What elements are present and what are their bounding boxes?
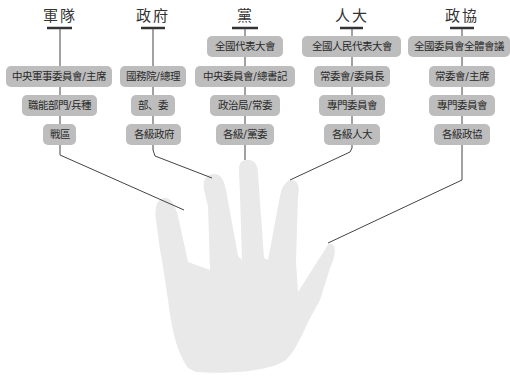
hand-silhouette [155, 160, 334, 373]
org-box: 各級政協 [434, 124, 490, 145]
column-title-military: 軍隊 [20, 4, 100, 25]
org-box: 部、委 [131, 95, 175, 116]
org-box: 職能部門/兵種 [22, 95, 97, 116]
org-box: 各級人大 [324, 124, 380, 145]
org-box: 全國人民代表大會 [302, 36, 401, 57]
org-box: 各級政府 [126, 124, 181, 145]
org-box: 政治局/常委 [210, 95, 280, 116]
org-box: 常委會/委員長 [314, 66, 390, 87]
org-box: 全國代表大會 [207, 36, 283, 57]
org-box: 常委會/主席 [429, 66, 495, 87]
column-title-npc: 人大 [312, 4, 392, 25]
org-box: 全國委員會全體會議 [408, 36, 510, 57]
org-box: 各級/黨委 [216, 124, 274, 145]
column-title-government: 政府 [113, 4, 193, 25]
column-title-cppcc: 政協 [422, 4, 502, 25]
column-title-party: 黨 [205, 4, 285, 25]
hand-diagram: 軍隊 政府 黨 人大 政協 中央軍事委員會/主席 職能部門/兵種 戰區 國務院/… [0, 0, 510, 379]
org-box: 專門委員會 [319, 95, 385, 116]
org-box: 專門委員會 [429, 95, 495, 116]
org-box: 戰區 [43, 124, 76, 145]
org-box: 中央委員會/總書記 [195, 66, 295, 87]
org-box: 國務院/總理 [120, 66, 186, 87]
org-box: 中央軍事委員會/主席 [6, 66, 112, 87]
